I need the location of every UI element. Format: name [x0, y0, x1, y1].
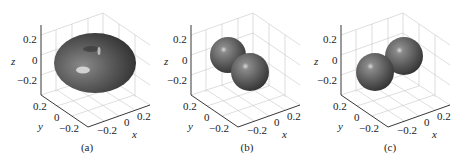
- z-tick-0: 0: [32, 55, 38, 66]
- x-tick-neg0.2: −0.2: [397, 125, 417, 136]
- z-axis-label: z: [164, 56, 168, 67]
- torus-surface: [54, 33, 136, 93]
- y-tick-neg0.2: −0.2: [59, 123, 79, 134]
- y-tick-0.2: 0.2: [333, 101, 347, 112]
- z-tick-0.2: 0.2: [173, 34, 187, 45]
- sphere-lobes: [356, 37, 423, 91]
- panel-c: 0.2 0 −0.2 z 0.2 0 −0.2 y −0.2 0 0.2 x (…: [300, 0, 453, 164]
- x-axis-label: x: [432, 129, 437, 140]
- sphere-lobes: [210, 37, 269, 91]
- y-tick-0.2: 0.2: [183, 101, 197, 112]
- z-tick-0: 0: [332, 55, 338, 66]
- y-tick-neg0.2: −0.2: [359, 123, 379, 134]
- panel-caption: (c): [370, 141, 410, 153]
- y-tick-neg0.2: −0.2: [209, 123, 229, 134]
- y-axis-label: y: [338, 121, 343, 132]
- z-axis-label: z: [314, 56, 318, 67]
- z-tick-neg0.2: −0.2: [17, 75, 37, 86]
- x-axis-label: x: [132, 129, 137, 140]
- x-tick-0: 0: [424, 117, 430, 128]
- x-tick-neg0.2: −0.2: [97, 125, 117, 136]
- z-tick-0.2: 0.2: [23, 34, 37, 45]
- x-tick-neg0.2: −0.2: [247, 125, 267, 136]
- panel-caption: (a): [67, 141, 107, 153]
- x-tick-0: 0: [274, 117, 280, 128]
- x-tick-0: 0: [124, 117, 130, 128]
- z-tick-neg0.2: −0.2: [317, 75, 337, 86]
- x-tick-0.2: 0.2: [287, 111, 301, 122]
- x-axis-label: x: [282, 129, 287, 140]
- y-axis-label: y: [188, 121, 193, 132]
- sphere-lower-left: [356, 53, 394, 91]
- z-axis-label: z: [11, 56, 15, 67]
- x-tick-0.2: 0.2: [137, 111, 151, 122]
- z-tick-neg0.2: −0.2: [167, 75, 187, 86]
- z-tick-0: 0: [182, 55, 188, 66]
- sphere-lower-right: [231, 53, 269, 91]
- z-tick-0.2: 0.2: [323, 34, 337, 45]
- panel-caption: (b): [227, 141, 267, 153]
- x-tick-0.2: 0.2: [437, 111, 451, 122]
- y-tick-0.2: 0.2: [33, 101, 47, 112]
- y-axis-label: y: [38, 121, 43, 132]
- panel-b: 0.2 0 −0.2 z 0.2 0 −0.2 y −0.2 0 0.2 x (…: [150, 0, 303, 164]
- panel-a: 0.2 0 −0.2 z 0.2 0 −0.2 y −0.2 0 0.2 x (…: [0, 0, 153, 164]
